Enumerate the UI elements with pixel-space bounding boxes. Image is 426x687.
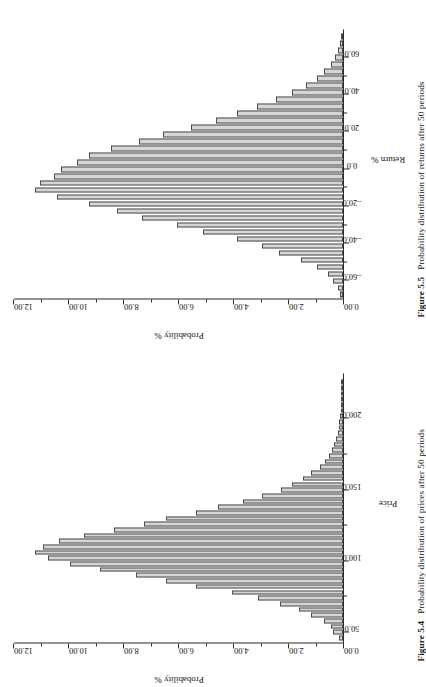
y-axis-title-5-4: Probability % — [154, 674, 204, 684]
figure-caption-text-5-5: Probability distribution of returns afte… — [416, 81, 426, 269]
histogram-bar — [338, 430, 343, 435]
bar-series-5-4 — [14, 373, 343, 643]
y-axis-tick-label: 0.00 — [344, 302, 359, 311]
histogram-bar — [216, 117, 343, 123]
histogram-bar — [303, 476, 343, 481]
plot-canvas-5-5: 0.002.004.006.008.0010.0012.00 –60.0–40.… — [14, 29, 344, 299]
x-axis-minor-tick — [344, 453, 347, 454]
histogram-bar — [35, 550, 343, 555]
histogram-bar — [40, 180, 343, 186]
histogram-bar — [77, 159, 343, 165]
histogram-bar — [333, 629, 343, 634]
x-axis-tick-label: 50.0 — [345, 623, 360, 632]
x-axis-tick-label: –20.0 — [343, 197, 362, 206]
bar-series-5-5 — [14, 29, 343, 299]
histogram-bar — [339, 635, 343, 640]
figure-block-5-5: 0.002.004.006.008.0010.0012.00 –60.0–40.… — [0, 0, 424, 343]
histogram-bar — [292, 89, 343, 95]
histogram-bar — [328, 271, 343, 277]
histogram-bar — [139, 138, 343, 144]
histogram-bar — [114, 527, 343, 532]
histogram-bar — [48, 555, 343, 560]
x-axis-minor-tick — [344, 224, 347, 225]
histogram-bar — [142, 215, 344, 221]
figure-caption-5-5: Figure 5.5Probability distribution of re… — [416, 0, 426, 343]
y-axis-tick-label: 2.00 — [289, 302, 304, 311]
histogram-bar — [317, 75, 343, 81]
rotated-chart-stage-5-5: 0.002.004.006.008.0010.0012.00 –60.0–40.… — [0, 0, 424, 343]
histogram-bar — [301, 257, 343, 263]
histogram-bar — [54, 173, 343, 179]
y-axis-tick-label: 6.00 — [179, 302, 194, 311]
histogram-bar — [334, 442, 343, 447]
histogram-bar — [340, 40, 343, 46]
y-axis-title-5-5: Probability % — [154, 330, 204, 340]
histogram-bar — [61, 166, 343, 172]
histogram-bar — [257, 103, 343, 109]
histogram-bar — [341, 391, 343, 396]
histogram-bar — [203, 229, 343, 235]
y-axis-minor-tick — [206, 643, 207, 646]
x-axis-tick-label: 40.0 — [345, 85, 360, 94]
plot-canvas-5-4: 0.002.004.006.008.0010.0012.00 50.0100.0… — [14, 373, 344, 643]
figure-number-5-4: Figure 5.4 — [416, 620, 426, 661]
histogram-bar — [338, 47, 343, 53]
histogram-bar — [84, 533, 343, 538]
y-axis-minor-tick — [41, 643, 42, 646]
y-axis-minor-tick — [316, 299, 317, 302]
histogram-bar — [341, 33, 343, 39]
histogram-bar — [35, 187, 343, 193]
histogram-bar — [335, 54, 343, 60]
y-axis-minor-tick — [41, 299, 42, 302]
y-axis-minor-tick — [151, 299, 152, 302]
figure-block-5-4: 0.002.004.006.008.0010.0012.00 50.0100.0… — [0, 344, 424, 687]
histogram-bar — [237, 110, 343, 116]
y-axis-minor-tick — [151, 643, 152, 646]
histogram-bar — [100, 567, 343, 572]
histogram-bar — [281, 487, 343, 492]
histogram-bar — [117, 208, 343, 214]
x-axis-minor-tick — [344, 595, 347, 596]
y-axis-minor-tick — [96, 643, 97, 646]
histogram-bar — [279, 250, 343, 256]
y-axis-tick-label: 10.00 — [69, 646, 88, 655]
histogram-bar — [311, 470, 343, 475]
x-axis-minor-tick — [344, 186, 347, 187]
histogram-bar — [324, 618, 343, 623]
rotated-chart-stage-5-4: 0.002.004.006.008.0010.0012.00 50.0100.0… — [0, 344, 424, 687]
x-axis-tick-label: –40.0 — [343, 234, 362, 243]
y-axis-tick-label: 8.00 — [124, 302, 139, 311]
x-axis-tick-label: –60.0 — [343, 271, 362, 280]
histogram-bar — [59, 538, 343, 543]
x-axis-line-5-5 — [343, 29, 344, 299]
histogram-bar — [339, 425, 343, 430]
histogram-bar — [331, 61, 343, 67]
y-axis-tick-label: 10.00 — [69, 302, 88, 311]
figure-caption-5-4: Figure 5.4Probability distribution of pr… — [416, 344, 426, 687]
histogram-bar — [336, 436, 343, 441]
y-axis-tick-label: 2.00 — [289, 646, 304, 655]
histogram-bar — [89, 152, 343, 158]
histogram-bar — [331, 624, 343, 629]
histogram-bar — [111, 145, 343, 151]
x-axis-minor-tick — [344, 524, 347, 525]
histogram-bar — [338, 285, 343, 291]
histogram-bar — [144, 521, 343, 526]
plot-area-5-4: 0.002.004.006.008.0010.0012.00 50.0100.0… — [14, 373, 344, 643]
histogram-bar — [163, 131, 343, 137]
x-axis-tick-label: 60.0 — [345, 48, 360, 57]
histogram-bar — [177, 222, 343, 228]
histogram-bar — [324, 68, 343, 74]
histogram-bar — [218, 504, 343, 509]
histogram-bar — [340, 292, 343, 298]
histogram-bar — [166, 578, 343, 583]
y-axis-tick-label: 4.00 — [234, 646, 249, 655]
histogram-bar — [196, 584, 343, 589]
x-axis-minor-tick — [344, 261, 347, 262]
y-axis-minor-tick — [316, 643, 317, 646]
histogram-bar — [317, 264, 343, 270]
histogram-bar — [258, 595, 343, 600]
histogram-bar — [262, 493, 343, 498]
y-axis-minor-tick — [261, 643, 262, 646]
histogram-bar — [320, 464, 343, 469]
